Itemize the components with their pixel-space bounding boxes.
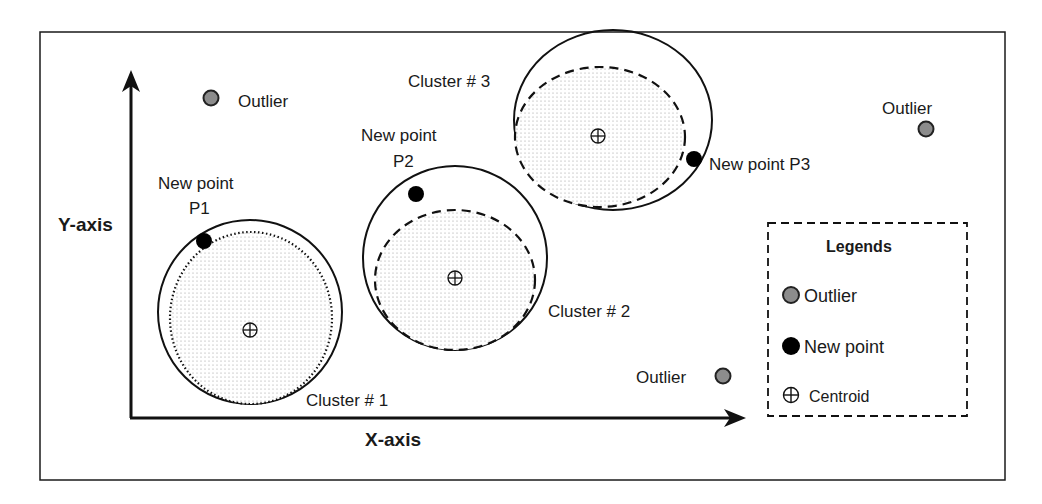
new-point-p2-label-line2: P2 [393,152,414,171]
new-point-p2 [408,186,424,202]
new-point-p2-label-line1: New point [361,126,437,145]
cluster-1-label: Cluster # 1 [306,391,388,410]
x-axis-label: X-axis [365,429,421,450]
x-axis [130,409,746,427]
centroid-icon [784,388,799,403]
outlier-1 [204,91,219,106]
legend: Legends Outlier New point Centroid [768,223,967,416]
new-point-p3 [686,151,702,167]
cluster-3-inner-region [515,67,685,207]
centroid-icon [591,129,605,143]
new-point-p1-label-line1: New point [158,174,234,193]
centroid-icon [243,323,257,337]
outlier-2-label: Outlier [882,99,932,118]
new-point-p1 [196,233,212,249]
centroid-icon [448,271,462,285]
new-point-dot-icon [782,337,800,355]
outlier-3 [716,369,731,384]
legend-item-new-point: New point [804,337,884,357]
new-point-p1-label-line2: P1 [189,199,210,218]
cluster-diagram: Y-axis X-axis Cluster # 1 New point P1 C… [0,0,1042,504]
cluster-3-label: Cluster # 3 [408,72,490,91]
y-axis [122,70,140,418]
legend-title: Legends [826,238,892,255]
cluster-1-inner-region [170,232,332,404]
legend-item-outlier: Outlier [804,286,857,306]
legend-item-centroid: Centroid [809,388,869,405]
y-axis-label: Y-axis [58,214,113,235]
new-point-p3-label: New point P3 [709,155,810,174]
cluster-3: Cluster # 3 [408,30,712,210]
cluster-2-label: Cluster # 2 [548,302,630,321]
outlier-dot-icon [783,287,799,303]
outlier-1-label: Outlier [238,92,288,111]
outlier-3-label: Outlier [636,368,686,387]
outlier-2 [919,122,934,137]
cluster-1: Cluster # 1 [158,220,388,410]
